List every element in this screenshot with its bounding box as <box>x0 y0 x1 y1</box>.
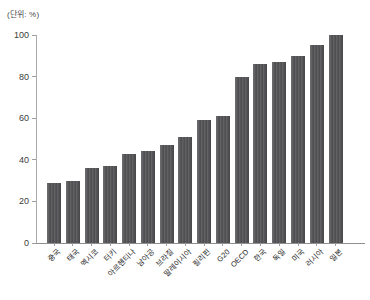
x-category-label-2: 멕시코 <box>79 248 100 269</box>
x-axis-tick-9 <box>222 243 223 246</box>
x-category-label-14: 러시아 <box>305 248 326 269</box>
unit-label: (단위: %) <box>7 8 39 19</box>
x-axis-tick-0 <box>54 243 55 246</box>
y-tick-label-80: 80 <box>1 72 29 82</box>
y-tick-label-0: 0 <box>1 238 29 248</box>
x-axis-tick-12 <box>279 243 280 246</box>
bar-chart-figure: (단위: %) 020406080100중국태국멕시코터키아르헨티나남아공브라질… <box>0 0 370 300</box>
bar-6 <box>160 145 174 243</box>
x-category-label-5: 남아공 <box>136 248 157 269</box>
bar-3 <box>103 166 117 243</box>
x-category-label-12: 독일 <box>272 248 288 264</box>
x-category-label-10: OECD <box>229 248 250 269</box>
bar-14 <box>310 45 324 243</box>
x-axis-tick-14 <box>316 243 317 246</box>
x-axis-tick-8 <box>204 243 205 246</box>
bar-11 <box>253 64 267 243</box>
y-axis-tick-100 <box>32 35 36 36</box>
y-tick-label-60: 60 <box>1 113 29 123</box>
bar-1 <box>66 181 80 243</box>
x-axis-tick-3 <box>110 243 111 246</box>
y-tick-label-100: 100 <box>1 30 29 40</box>
bar-0 <box>47 183 61 243</box>
y-tick-label-20: 20 <box>1 196 29 206</box>
bar-7 <box>178 137 192 243</box>
bar-8 <box>197 120 211 243</box>
plot-area: 020406080100중국태국멕시코터키아르헨티나남아공브라질말레이시아필리핀… <box>36 35 365 244</box>
x-category-label-0: 중국 <box>47 248 63 264</box>
y-axis-tick-0 <box>32 243 36 244</box>
y-axis-tick-40 <box>32 159 36 160</box>
x-category-label-15: 일본 <box>329 248 345 264</box>
x-axis-tick-2 <box>91 243 92 246</box>
x-axis-tick-5 <box>147 243 148 246</box>
x-category-label-11: 한국 <box>253 248 269 264</box>
bar-12 <box>272 62 286 243</box>
x-axis-tick-4 <box>129 243 130 246</box>
x-axis-tick-6 <box>166 243 167 246</box>
bar-15 <box>329 35 343 243</box>
bar-10 <box>235 77 249 243</box>
y-axis-tick-60 <box>32 118 36 119</box>
y-axis-tick-20 <box>32 201 36 202</box>
x-axis-tick-1 <box>72 243 73 246</box>
bar-2 <box>85 168 99 243</box>
y-tick-label-40: 40 <box>1 155 29 165</box>
x-axis-tick-13 <box>298 243 299 246</box>
bar-4 <box>122 154 136 243</box>
x-axis-tick-10 <box>241 243 242 246</box>
y-axis-tick-80 <box>32 76 36 77</box>
bar-9 <box>216 116 230 243</box>
bar-13 <box>291 56 305 243</box>
x-category-label-8: 필리핀 <box>192 248 213 269</box>
x-axis-tick-7 <box>185 243 186 246</box>
bar-5 <box>141 151 155 243</box>
x-axis-tick-15 <box>335 243 336 246</box>
x-axis-tick-11 <box>260 243 261 246</box>
